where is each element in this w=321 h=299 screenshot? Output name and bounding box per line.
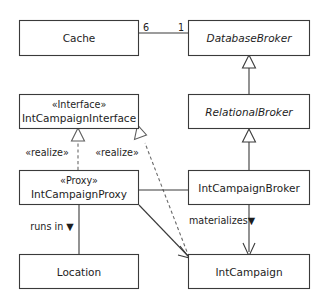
multiplicity-cache-side: 6	[143, 22, 149, 33]
class-name-intcampaignproxy: IntCampaignProxy	[31, 188, 127, 200]
generalization-arrowhead-databasebroker	[243, 55, 256, 68]
class-name-intcampaign: IntCampaign	[215, 266, 282, 278]
edge-label-realize-proxy: «realize»	[25, 147, 69, 158]
class-name-cache: Cache	[63, 32, 96, 44]
edge-campaign-realize-line	[145, 143, 189, 257]
class-name-relationalbroker: RelationalBroker	[205, 106, 293, 118]
uml-class-diagram: Cache DatabaseBroker «Interface» IntCamp…	[0, 0, 321, 299]
class-stereotype-intcampaignproxy: «Proxy»	[60, 175, 98, 186]
class-name-databasebroker: DatabaseBroker	[207, 32, 293, 44]
class-name-location: Location	[57, 266, 101, 278]
diagram-canvas: Cache DatabaseBroker «Interface» IntCamp…	[0, 0, 321, 299]
edge-label-materializes: materializes▼	[189, 215, 256, 226]
realize-arrowhead-proxy	[72, 128, 85, 141]
edge-label-runs-in: runs in ▼	[30, 221, 74, 232]
class-name-intcampaignbroker: IntCampaignBroker	[198, 182, 300, 194]
class-name-intcampaigninterface: IntCampaignInterface	[22, 112, 136, 124]
edge-proxy-intcampaign	[139, 205, 188, 256]
class-stereotype-intcampaigninterface: «Interface»	[52, 99, 107, 110]
multiplicity-databasebroker-side: 1	[178, 22, 184, 33]
edge-label-realize-campaign: «realize»	[95, 147, 139, 158]
generalization-arrowhead-relationalbroker	[243, 129, 256, 142]
